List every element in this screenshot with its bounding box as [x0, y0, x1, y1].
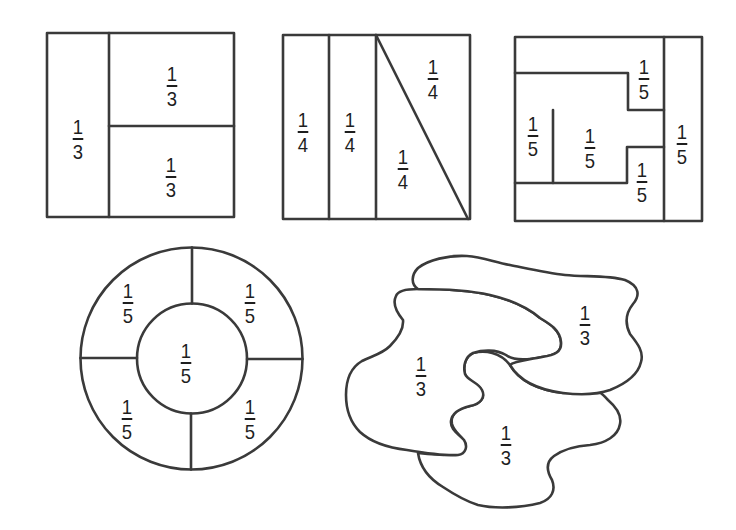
fraction-diagram [0, 0, 736, 530]
fraction-numerator: 1 [629, 160, 655, 180]
fraction-numerator: 1 [420, 57, 446, 77]
fraction-denominator: 3 [408, 379, 434, 399]
fraction-denominator: 5 [520, 139, 546, 159]
fraction-numerator: 1 [631, 57, 657, 77]
fraction-label: 15 [669, 122, 695, 167]
fraction-numerator: 1 [669, 122, 695, 142]
fraction-numerator: 1 [408, 354, 434, 374]
fraction-numerator: 1 [115, 281, 141, 301]
fraction-numerator: 1 [173, 341, 199, 361]
fraction-denominator: 3 [159, 89, 185, 109]
fraction-denominator: 5 [173, 366, 199, 386]
fraction-label: 13 [159, 64, 185, 109]
fraction-numerator: 1 [493, 423, 519, 443]
fraction-label: 15 [115, 281, 141, 326]
fraction-denominator: 3 [493, 448, 519, 468]
fraction-numerator: 1 [390, 147, 416, 167]
fraction-numerator: 1 [158, 155, 184, 175]
fraction-denominator: 5 [631, 82, 657, 102]
fraction-label: 15 [520, 114, 546, 159]
fraction-label: 15 [173, 341, 199, 386]
fraction-denominator: 5 [237, 306, 263, 326]
fraction-label: 15 [237, 397, 263, 442]
fraction-numerator: 1 [114, 397, 140, 417]
fraction-label: 13 [158, 155, 184, 200]
fraction-denominator: 4 [420, 82, 446, 102]
fraction-numerator: 1 [337, 110, 363, 130]
fraction-numerator: 1 [237, 397, 263, 417]
fraction-denominator: 3 [65, 142, 91, 162]
fraction-numerator: 1 [577, 126, 603, 146]
fraction-denominator: 5 [669, 147, 695, 167]
fraction-label: 15 [629, 160, 655, 205]
fraction-denominator: 4 [390, 172, 416, 192]
fraction-label: 13 [572, 303, 598, 348]
fraction-numerator: 1 [572, 303, 598, 323]
fraction-denominator: 4 [290, 135, 316, 155]
fraction-label: 15 [577, 126, 603, 171]
blob-thirds [346, 256, 642, 508]
fraction-label: 15 [114, 397, 140, 442]
fraction-denominator: 5 [577, 151, 603, 171]
fraction-numerator: 1 [159, 64, 185, 84]
fraction-denominator: 3 [572, 328, 598, 348]
fraction-label: 15 [631, 57, 657, 102]
fraction-numerator: 1 [520, 114, 546, 134]
fraction-denominator: 5 [629, 185, 655, 205]
fraction-denominator: 4 [337, 135, 363, 155]
fraction-label: 14 [337, 110, 363, 155]
fraction-numerator: 1 [65, 117, 91, 137]
fraction-denominator: 5 [115, 306, 141, 326]
fraction-numerator: 1 [237, 281, 263, 301]
fraction-label: 13 [65, 117, 91, 162]
fraction-label: 15 [237, 281, 263, 326]
fraction-label: 14 [290, 110, 316, 155]
fraction-denominator: 5 [237, 422, 263, 442]
fraction-denominator: 3 [158, 180, 184, 200]
fraction-denominator: 5 [114, 422, 140, 442]
fraction-label: 13 [408, 354, 434, 399]
fraction-numerator: 1 [290, 110, 316, 130]
fraction-label: 13 [493, 423, 519, 468]
fraction-label: 14 [390, 147, 416, 192]
fraction-label: 14 [420, 57, 446, 102]
